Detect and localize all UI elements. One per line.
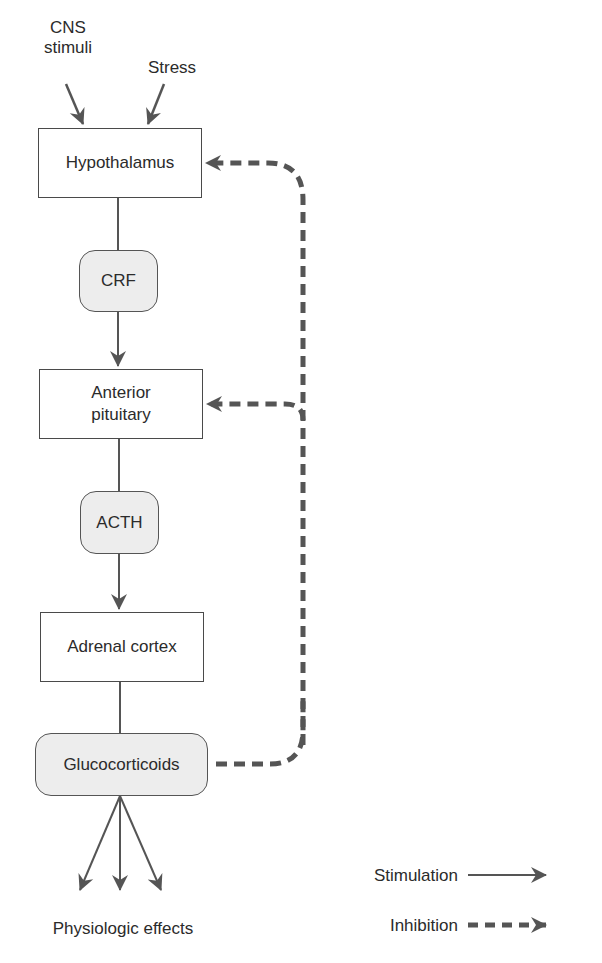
glucocorticoids-label: Glucocorticoids xyxy=(63,755,179,775)
cns-arrow xyxy=(66,84,83,124)
crf-label: CRF xyxy=(101,271,136,291)
inhibition-from-glucocorticoids xyxy=(216,700,303,764)
hypothalamus-box: Hypothalamus xyxy=(38,128,202,198)
inhibition-feedback-to-hypothalamus xyxy=(206,163,303,745)
inhibition-feedback-to-pituitary xyxy=(207,404,303,420)
hypothalamus-label: Hypothalamus xyxy=(66,152,175,174)
physiologic-effects-label: Physiologic effects xyxy=(20,919,226,939)
adrenal-cortex-box: Adrenal cortex xyxy=(40,612,204,682)
anterior-pituitary-label-line1: Anterior xyxy=(91,382,151,404)
stress-arrow xyxy=(148,84,164,124)
acth-label: ACTH xyxy=(96,513,142,533)
glucocorticoids-node: Glucocorticoids xyxy=(35,733,208,796)
crf-node: CRF xyxy=(79,250,158,312)
anterior-pituitary-box: Anterior pituitary xyxy=(39,369,203,439)
anterior-pituitary-label-line2: pituitary xyxy=(91,404,151,426)
legend-stimulation-label: Stimulation xyxy=(348,866,458,886)
acth-node: ACTH xyxy=(80,491,159,554)
adrenal-cortex-label: Adrenal cortex xyxy=(67,636,177,658)
physiologic-effects-arrows xyxy=(80,796,161,890)
legend-inhibition-label: Inhibition xyxy=(348,916,458,936)
